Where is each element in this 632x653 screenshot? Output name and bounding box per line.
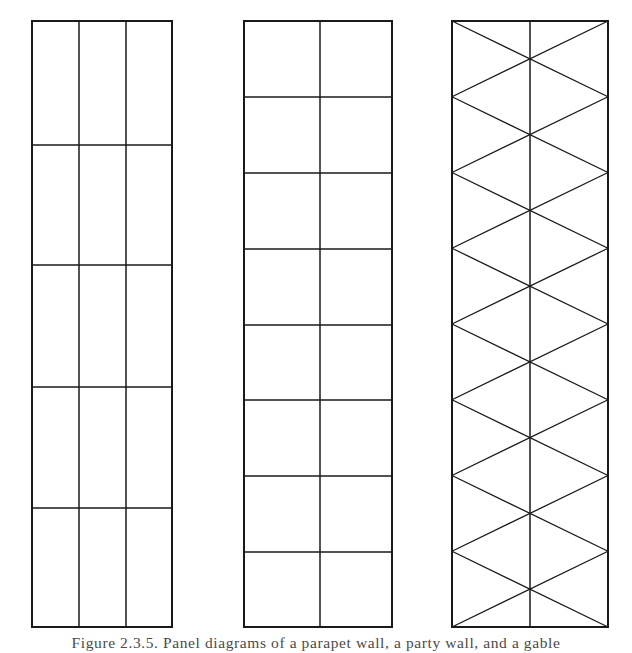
figure-caption: Figure 2.3.5. Panel diagrams of a parape… [0,634,632,652]
panel-2-outer-frame [244,21,392,627]
panels-group [32,21,608,627]
two-column-eight-row-braced-panel [452,21,608,627]
three-column-five-row-panel [32,21,172,627]
panel-1-outer-frame [32,21,172,627]
two-column-eight-row-panel [244,21,392,627]
panel-diagram-figure [0,0,632,653]
figure-page: Figure 2.3.5. Panel diagrams of a parape… [0,0,632,653]
